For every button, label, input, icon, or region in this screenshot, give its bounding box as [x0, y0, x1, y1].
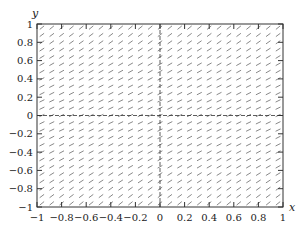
slope-segment: [148, 48, 153, 51]
x-tick-label: −0.4: [99, 212, 123, 223]
slope-segment: [246, 70, 251, 73]
y-tick-label: 0.6: [17, 55, 33, 66]
slope-segment: [118, 194, 122, 197]
slope-segment: [89, 78, 94, 81]
slope-segment: [217, 107, 222, 109]
slope-segment: [227, 63, 232, 66]
slope-segment: [266, 144, 271, 147]
slope-segment: [168, 63, 173, 66]
slope-segment: [69, 78, 74, 81]
slope-segment: [108, 158, 113, 161]
slope-segment: [187, 41, 192, 44]
slope-segment: [177, 78, 182, 81]
slope-segment: [59, 100, 64, 102]
slope-segment: [108, 129, 113, 131]
slope-segment: [256, 194, 260, 197]
slope-segment: [167, 144, 172, 147]
slope-segment: [236, 122, 241, 124]
slope-segment: [99, 173, 104, 176]
slope-segment: [89, 180, 94, 183]
slope-segment: [187, 129, 192, 131]
slope-segment: [256, 129, 261, 131]
slope-segment: [69, 202, 73, 206]
slope-segment: [167, 122, 172, 124]
slope-segment: [89, 33, 93, 36]
slope-segment: [197, 48, 202, 51]
slope-segment: [187, 194, 191, 197]
slope-segment: [79, 165, 84, 168]
slope-segment: [276, 100, 281, 102]
slope-segment: [128, 33, 132, 36]
slope-segment: [256, 158, 261, 161]
slope-segment: [177, 129, 182, 131]
slope-segment: [187, 151, 192, 154]
slope-segment: [128, 194, 132, 197]
slope-segment: [99, 41, 104, 44]
slope-segment: [276, 180, 281, 183]
slope-segment: [256, 165, 261, 168]
slope-segment: [207, 136, 212, 139]
y-tick-label: 0.2: [17, 92, 33, 103]
slope-segment: [207, 70, 212, 73]
slope-segment: [79, 41, 84, 44]
slope-segment: [168, 180, 173, 183]
slope-segment: [148, 85, 153, 88]
slope-segment: [69, 33, 73, 36]
slope-segment: [227, 194, 231, 197]
slope-segment: [236, 158, 241, 161]
x-tick-label: 0: [157, 212, 163, 223]
slope-segment: [187, 92, 192, 95]
slope-segment: [148, 173, 153, 176]
slope-segment: [187, 48, 192, 51]
slope-segment: [217, 41, 222, 44]
slope-segment: [40, 63, 45, 66]
slope-segment: [89, 158, 94, 161]
slope-segment: [207, 180, 212, 183]
x-tick-labels: −1−0.8−0.6−0.4−0.200.20.40.60.81: [30, 212, 287, 223]
slope-segment: [256, 107, 261, 109]
slope-segment: [49, 78, 54, 81]
slope-segment: [50, 48, 55, 51]
slope-segment: [256, 173, 261, 176]
slope-segment: [148, 107, 153, 109]
slope-segment: [266, 33, 270, 36]
slope-segment: [148, 26, 152, 30]
slope-segment: [118, 187, 123, 190]
slope-segment: [79, 158, 84, 161]
slope-segment: [197, 180, 202, 183]
slope-segment: [49, 70, 54, 73]
slope-segment: [217, 165, 222, 168]
slope-segment: [217, 92, 222, 95]
slope-segment: [69, 63, 74, 66]
slope-segment: [276, 202, 280, 206]
slope-segment: [236, 173, 241, 176]
slope-segment: [177, 144, 182, 147]
slope-segment: [89, 187, 94, 190]
slope-segment: [49, 92, 54, 95]
slope-segment: [187, 100, 192, 102]
slope-segment: [138, 26, 142, 30]
slope-segment: [69, 48, 74, 51]
slope-segment: [138, 92, 143, 95]
slope-segment: [49, 158, 54, 161]
slope-segment: [108, 92, 113, 95]
slope-segment: [256, 70, 261, 73]
slope-segment: [89, 56, 94, 59]
slope-segment: [89, 151, 94, 154]
slope-segment: [276, 136, 281, 139]
slope-segment: [69, 85, 74, 88]
slope-segment: [187, 180, 192, 183]
slope-segment: [217, 136, 222, 139]
slope-segment: [148, 165, 153, 168]
slope-segment: [266, 70, 271, 73]
slope-segment: [40, 173, 45, 176]
slope-segment: [246, 78, 251, 81]
slope-segment: [148, 41, 153, 44]
slope-segment: [118, 33, 122, 36]
slope-segment: [207, 63, 212, 66]
slope-segment: [79, 144, 84, 147]
slope-segment: [59, 194, 63, 197]
slope-segment: [59, 180, 64, 183]
slope-segment: [227, 70, 232, 73]
slope-segment: [276, 165, 281, 168]
